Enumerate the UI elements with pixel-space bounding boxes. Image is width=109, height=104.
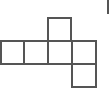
face-bottom	[71, 63, 97, 88]
partial-edge-line	[107, 0, 109, 14]
face-row-3	[47, 40, 73, 65]
face-row-4	[71, 40, 97, 65]
face-top	[47, 17, 72, 42]
face-row-2	[23, 40, 49, 65]
face-row-1	[0, 40, 25, 65]
